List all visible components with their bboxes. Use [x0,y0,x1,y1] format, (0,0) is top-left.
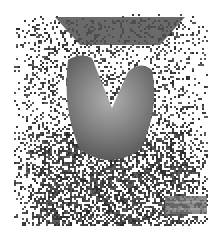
scan-image [0,0,218,239]
